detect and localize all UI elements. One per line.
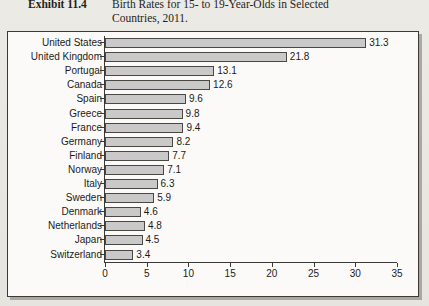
- category-label: United Kingdom: [31, 50, 102, 64]
- bar-row: Sweden5.9: [8, 191, 418, 205]
- bar-value-label: 21.8: [290, 50, 309, 64]
- bar-row: Netherlands4.8: [8, 219, 418, 233]
- x-axis-tick-label: 5: [135, 268, 159, 279]
- bar-chart-plot: United States31.3United Kingdom21.8Portu…: [8, 32, 418, 296]
- bar: [105, 109, 183, 119]
- category-label: Norway: [68, 163, 102, 177]
- x-axis-line: [104, 262, 397, 263]
- bar-value-label: 6.3: [161, 177, 175, 191]
- category-label: Switzerland: [50, 248, 102, 262]
- bar-row: Spain9.6: [8, 92, 418, 106]
- y-axis-line: [104, 36, 105, 262]
- bar-value-label: 5.9: [157, 191, 171, 205]
- bar-value-label: 4.8: [148, 219, 162, 233]
- bar-value-label: 9.4: [186, 121, 200, 135]
- bar-row: Greece9.8: [8, 107, 418, 121]
- bar-row: United States31.3: [8, 36, 418, 50]
- x-axis-tick: [355, 263, 356, 267]
- x-axis-tick: [230, 263, 231, 267]
- category-label: Sweden: [66, 191, 102, 205]
- category-label: Spain: [76, 92, 102, 106]
- caption-text-line-2: Countries, 2011.: [0, 11, 429, 25]
- bar: [105, 137, 173, 147]
- bar: [105, 52, 287, 62]
- bar: [105, 94, 186, 104]
- bar: [105, 66, 214, 76]
- bar-row: Portugal13.1: [8, 64, 418, 78]
- x-axis-tick-label: 35: [385, 268, 409, 279]
- x-axis-tick: [105, 263, 106, 267]
- category-label: Japan: [75, 233, 102, 247]
- bar-value-label: 7.1: [167, 163, 181, 177]
- category-label: France: [71, 121, 102, 135]
- bar-row: Canada12.6: [8, 78, 418, 92]
- category-label: Netherlands: [48, 219, 102, 233]
- x-axis-tick-label: 15: [218, 268, 242, 279]
- bar-value-label: 13.1: [217, 64, 236, 78]
- category-label: Germany: [61, 135, 102, 149]
- x-axis-tick-label: 25: [302, 268, 326, 279]
- x-axis-tick: [314, 263, 315, 267]
- category-label: United States: [42, 36, 102, 50]
- x-axis-tick: [272, 263, 273, 267]
- bar-row: Germany8.2: [8, 135, 418, 149]
- category-label: Canada: [67, 78, 102, 92]
- category-label: Denmark: [61, 205, 102, 219]
- bar: [105, 235, 143, 245]
- bar-value-label: 3.4: [136, 248, 150, 262]
- x-axis-tick: [397, 263, 398, 267]
- bar-row: Norway7.1: [8, 163, 418, 177]
- bar-value-label: 9.8: [186, 107, 200, 121]
- exhibit-number: Exhibit 11.4: [0, 0, 112, 11]
- bar-value-label: 8.2: [176, 135, 190, 149]
- category-label: Portugal: [65, 64, 102, 78]
- bar: [105, 250, 133, 260]
- bar-value-label: 31.3: [369, 36, 388, 50]
- category-label: Italy: [84, 177, 102, 191]
- x-axis-tick-label: 20: [260, 268, 284, 279]
- bar-value-label: 12.6: [213, 78, 232, 92]
- bar: [105, 165, 164, 175]
- bar-row: France9.4: [8, 121, 418, 135]
- bar-row: Italy6.3: [8, 177, 418, 191]
- bar: [105, 38, 366, 48]
- chart-frame: United States31.3United Kingdom21.8Portu…: [7, 31, 419, 297]
- category-label: Finland: [69, 149, 102, 163]
- bar: [105, 151, 169, 161]
- x-axis-tick-label: 10: [176, 268, 200, 279]
- bar-row: Japan4.5: [8, 233, 418, 247]
- x-axis-tick-label: 30: [343, 268, 367, 279]
- bar-value-label: 4.6: [144, 205, 158, 219]
- bar-row: Denmark4.6: [8, 205, 418, 219]
- bar-row: United Kingdom21.8: [8, 50, 418, 64]
- bar-value-label: 9.6: [189, 92, 203, 106]
- bar: [105, 179, 158, 189]
- x-axis-tick: [188, 263, 189, 267]
- bar: [105, 221, 145, 231]
- bar: [105, 193, 154, 203]
- bar: [105, 207, 141, 217]
- bar: [105, 80, 210, 90]
- bar-row: Finland7.7: [8, 149, 418, 163]
- x-axis-tick-label: 0: [93, 268, 117, 279]
- caption-text-line-1: Birth Rates for 15- to 19-Year-Olds in S…: [112, 0, 329, 11]
- bar-row: Switzerland3.4: [8, 248, 418, 262]
- bar-value-label: 7.7: [172, 149, 186, 163]
- exhibit-caption: Exhibit 11.4Birth Rates for 15- to 19-Ye…: [0, 0, 429, 27]
- caption-line-1: Exhibit 11.4Birth Rates for 15- to 19-Ye…: [0, 0, 429, 11]
- bar: [105, 123, 183, 133]
- bar-value-label: 4.5: [146, 233, 160, 247]
- x-axis-tick: [147, 263, 148, 267]
- category-label: Greece: [69, 107, 102, 121]
